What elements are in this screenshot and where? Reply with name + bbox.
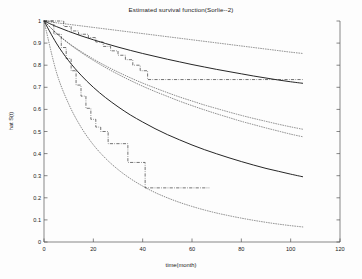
series-line (44, 21, 303, 137)
y-tick-label: 0 (38, 239, 41, 245)
y-tick-label: 0.9 (33, 40, 41, 46)
chart-canvas: 020406080100120 00.10.20.30.40.50.60.70.… (0, 0, 362, 279)
x-tick-label: 40 (140, 246, 146, 252)
y-tick-label: 0.5 (33, 129, 41, 135)
x-tick-label: 20 (90, 246, 96, 252)
y-tick-label: 0.3 (33, 173, 41, 179)
series-line (44, 21, 303, 129)
figure-window: Estimated survival function(Sorlie--2) h… (0, 0, 362, 279)
y-tick-label: 0.2 (33, 195, 41, 201)
y-tick-label: 0.8 (33, 62, 41, 68)
x-tick-label: 60 (189, 246, 195, 252)
y-tick-label: 0.1 (33, 217, 41, 223)
x-tick-label: 80 (238, 246, 244, 252)
y-tick-label: 0.6 (33, 106, 41, 112)
x-tick-label: 100 (286, 246, 295, 252)
series-group (44, 21, 303, 227)
x-tick-group: 020406080100120 (42, 239, 344, 253)
y-tick-label: 0.4 (33, 151, 41, 157)
series-line (44, 21, 303, 177)
series-line (44, 21, 303, 83)
series-line (44, 21, 303, 227)
x-tick-label: 120 (335, 246, 344, 252)
y-tick-group: 00.10.20.30.40.50.60.70.80.91 (33, 18, 340, 245)
series-line (44, 21, 303, 53)
x-tick-label: 0 (42, 246, 45, 252)
series-line (44, 21, 303, 80)
y-tick-label: 0.7 (33, 84, 41, 90)
y-tick-label: 1 (38, 18, 41, 24)
axes-frame (44, 21, 340, 242)
